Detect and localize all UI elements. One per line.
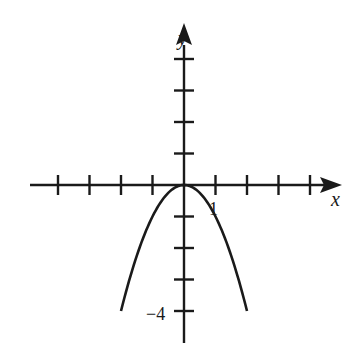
graph-canvas: y x 1 −4 xyxy=(0,0,359,360)
y-axis-label: y xyxy=(176,27,187,50)
x-axis-label: x xyxy=(330,188,340,210)
y-tick-label-neg-4: −4 xyxy=(146,304,165,324)
x-tick-label-1: 1 xyxy=(209,199,218,219)
axes xyxy=(30,23,342,343)
